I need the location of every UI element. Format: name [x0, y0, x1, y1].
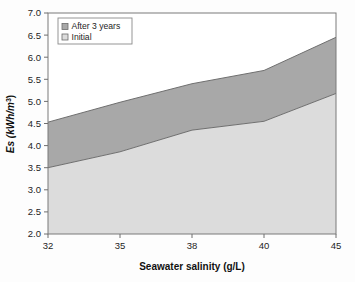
- chart-legend: After 3 years Initial: [58, 18, 132, 44]
- y-tick-label: 5.0: [28, 96, 41, 107]
- svg-text:Es (kWh/m3): Es (kWh/m3): [5, 95, 17, 153]
- legend-item-after-3-years[interactable]: After 3 years: [62, 21, 120, 31]
- y-tick-label: 2.0: [28, 228, 41, 239]
- legend-label-after-3-years: After 3 years: [72, 21, 121, 31]
- y-tick-label: 4.0: [28, 140, 41, 151]
- x-tick-label: 40: [259, 240, 270, 251]
- y-tick-label: 2.5: [28, 206, 41, 217]
- legend-label-initial: Initial: [72, 32, 92, 42]
- chart-figure: 7.06.56.05.55.04.54.03.53.02.52.0 323538…: [0, 0, 355, 282]
- x-axis-title: Seawater salinity (g/L): [139, 261, 245, 272]
- y-tick-label: 3.5: [28, 162, 41, 173]
- x-tick-label: 32: [43, 240, 54, 251]
- legend-swatch-initial: [62, 34, 68, 40]
- y-axis-title-text: Es (kWh/m: [5, 102, 16, 153]
- x-tick-label: 38: [187, 240, 198, 251]
- y-axis-title-tail: ): [5, 95, 16, 98]
- y-tick-label: 3.0: [28, 184, 41, 195]
- y-tick-label: 5.5: [28, 74, 41, 85]
- legend-swatch-after-3-years: [62, 24, 68, 30]
- y-axis-title: Es (kWh/m3): [5, 95, 17, 153]
- x-tick-label: 35: [115, 240, 126, 251]
- y-tick-label: 6.5: [28, 30, 41, 41]
- chart-svg: 7.06.56.05.55.04.54.03.53.02.52.0 323538…: [0, 0, 355, 282]
- y-axis: 7.06.56.05.55.04.54.03.53.02.52.0: [28, 7, 48, 239]
- y-tick-label: 6.0: [28, 52, 41, 63]
- y-tick-label: 4.5: [28, 118, 41, 129]
- x-axis: 3235384045: [43, 234, 342, 251]
- y-tick-label: 7.0: [28, 7, 41, 18]
- x-tick-label: 45: [331, 240, 342, 251]
